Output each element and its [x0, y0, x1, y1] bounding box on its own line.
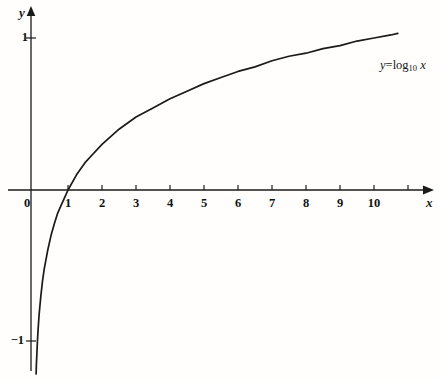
x-tick-label-5: 5 — [193, 197, 215, 210]
logarithm-graph-figure: y x 0 1 −1 12345678910 y=log10 x — [0, 0, 439, 380]
x-tick-label-2: 2 — [91, 197, 113, 210]
plot-canvas — [0, 0, 439, 380]
x-axis-arrowhead — [423, 186, 434, 195]
y-axis-variable-label: y — [19, 6, 25, 19]
x-tick-label-3: 3 — [125, 197, 147, 210]
x-tick-label-6: 6 — [227, 197, 249, 210]
equation-log-function: log — [393, 58, 409, 72]
x-tick-label-1: 1 — [57, 197, 79, 210]
x-axis-variable-label: x — [426, 196, 433, 209]
curve-equation-annotation: y=log10 x — [380, 58, 426, 73]
equation-log-base: 10 — [409, 63, 418, 73]
x-tick-label-4: 4 — [159, 197, 181, 210]
equation-x-symbol: x — [420, 58, 426, 72]
x-tick-label-7: 7 — [261, 197, 283, 210]
x-tick-label-10: 10 — [363, 197, 385, 210]
equation-equals-symbol: = — [386, 58, 393, 72]
x-tick-label-9: 9 — [329, 197, 351, 210]
y-tick-label-neg1: −1 — [2, 334, 24, 347]
y-axis-arrowhead — [27, 6, 36, 16]
y-tick-label-1: 1 — [6, 31, 28, 44]
origin-tick-label: 0 — [24, 197, 30, 210]
x-axis-ticks — [68, 185, 408, 190]
x-tick-label-8: 8 — [295, 197, 317, 210]
